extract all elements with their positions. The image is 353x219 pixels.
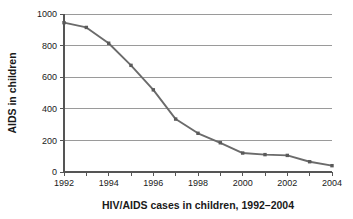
y-tick-label-600: 600 — [42, 72, 57, 82]
data-point-1994 — [107, 42, 110, 45]
data-point-1993 — [85, 26, 88, 29]
y-tick-label-1000: 1000 — [37, 9, 57, 19]
data-point-2000 — [241, 151, 244, 154]
data-point-1995 — [129, 64, 132, 67]
line-chart: 02004006008001000 1992199419961998200020… — [0, 0, 353, 219]
data-point-2002 — [286, 154, 289, 157]
x-tick-label-2002: 2002 — [277, 178, 297, 188]
data-point-1996 — [152, 88, 155, 91]
data-point-1998 — [196, 132, 199, 135]
y-axis-title: AIDS in children — [6, 52, 18, 133]
x-tick-label-1992: 1992 — [54, 178, 74, 188]
x-tick-label-1998: 1998 — [188, 178, 208, 188]
data-point-2003 — [308, 160, 311, 163]
x-axis-title: HIV/AIDS cases in children, 1992–2004 — [102, 199, 294, 211]
y-tick-label-800: 800 — [42, 41, 57, 51]
y-tick-label-200: 200 — [42, 136, 57, 146]
data-point-1999 — [219, 141, 222, 144]
x-tick-label-1996: 1996 — [143, 178, 163, 188]
x-tick-label-2004: 2004 — [322, 178, 342, 188]
y-tick-label-0: 0 — [52, 167, 57, 177]
x-tick-label-1994: 1994 — [99, 178, 119, 188]
data-point-2001 — [263, 153, 266, 156]
data-point-1992 — [62, 21, 65, 24]
y-tick-label-400: 400 — [42, 104, 57, 114]
x-tick-label-2000: 2000 — [233, 178, 253, 188]
data-point-1997 — [174, 117, 177, 120]
data-point-2004 — [330, 164, 333, 167]
chart-container: 02004006008001000 1992199419961998200020… — [0, 0, 353, 219]
